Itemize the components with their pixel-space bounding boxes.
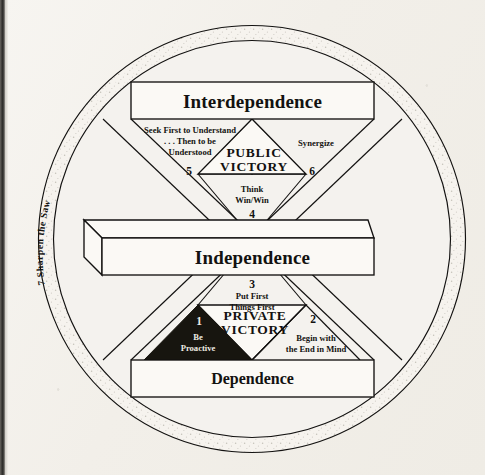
private-victory-caption: PRIVATE VICTORY: [221, 308, 289, 337]
habit-5-number: 5: [186, 165, 192, 177]
habit-4-label-line-2: Win/Win: [235, 195, 269, 205]
habit-5-label-line-2: . . . Then to be: [164, 136, 216, 146]
independence-label: Independence: [195, 247, 310, 268]
level-bar-interdependence: Interdependence: [131, 82, 374, 119]
habit-2-label-line-2: the End in Mind: [286, 344, 347, 354]
seven-habits-diagram: 7 Sharpen the Saw: [0, 0, 485, 475]
habit-6-label-line-1: Synergize: [298, 138, 334, 148]
habit-1-number: 1: [196, 315, 202, 327]
habit-3-label-line-1: Put First: [236, 291, 269, 301]
independence-slab-top-face: [84, 220, 374, 238]
level-bar-independence: Independence: [84, 220, 374, 275]
habit-3-number: 3: [249, 278, 255, 290]
habit-1-label-line-1: Be: [193, 332, 203, 342]
habit-2-label-line-1: Begin with: [296, 333, 336, 343]
habit-5-label-line-1: Seek First to Understand: [144, 125, 236, 135]
public-victory-line-2: VICTORY: [220, 159, 288, 174]
public-victory-caption: PUBLIC VICTORY: [220, 145, 288, 174]
scanned-page: 7 Sharpen the Saw: [0, 0, 485, 475]
level-bar-dependence: Dependence: [131, 360, 374, 397]
habit-4-label-line-1: Think: [241, 184, 264, 194]
habit-3-label-line-2: Things First: [229, 302, 274, 312]
habit-5-label-line-3: Understood: [169, 147, 212, 157]
private-victory-line-2: VICTORY: [221, 322, 289, 337]
dependence-label: Dependence: [211, 370, 294, 388]
public-victory-line-1: PUBLIC: [226, 145, 281, 160]
habit-4-number: 4: [249, 208, 255, 220]
interdependence-label: Interdependence: [183, 91, 322, 112]
habit-1-label-line-2: Proactive: [181, 343, 216, 353]
habit-6-number: 6: [309, 165, 315, 177]
habit-2-number: 2: [310, 313, 316, 325]
